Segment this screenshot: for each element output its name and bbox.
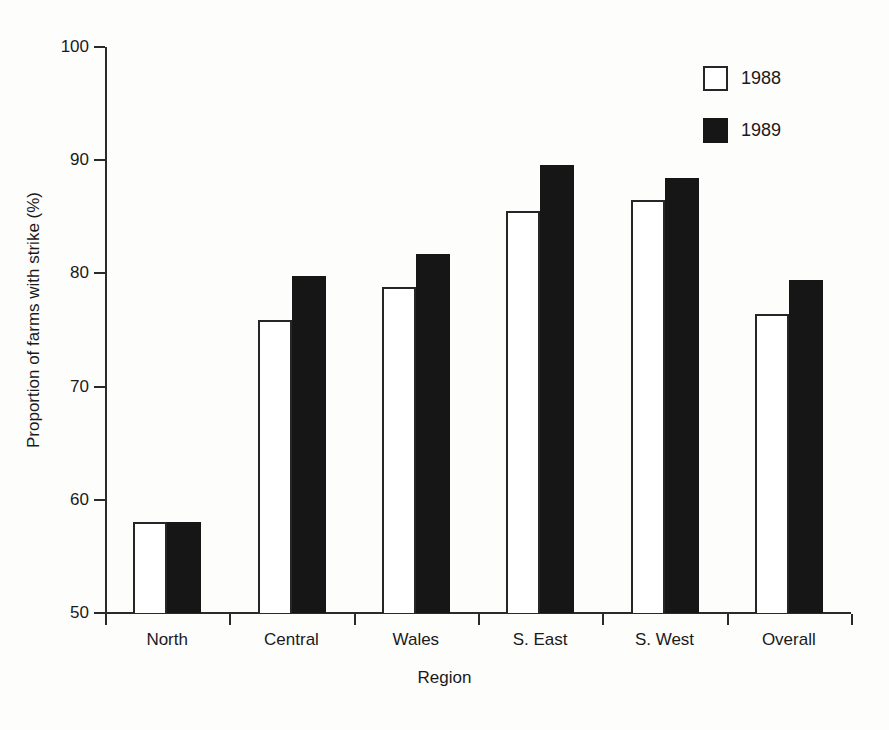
legend-label-1989: 1989	[741, 118, 781, 143]
y-axis-tick-label: 70	[49, 378, 89, 395]
x-axis-tick-mark	[354, 614, 356, 625]
bar-1989-wales	[416, 254, 450, 613]
x-axis-label-overall: Overall	[727, 630, 851, 649]
bar-group	[133, 47, 201, 613]
x-axis-tick-mark	[105, 614, 107, 625]
legend-label-1988: 1988	[741, 66, 781, 91]
bar-1989-central	[292, 276, 326, 613]
x-axis-tick-mark	[478, 614, 480, 625]
y-axis-tick-mark	[94, 499, 105, 501]
bar-1988-s-west	[631, 200, 665, 613]
bar-1988-central	[258, 320, 292, 613]
y-axis-tick-label: 80	[49, 264, 89, 281]
filled-square-swatch-icon	[703, 118, 728, 143]
bar-1988-overall	[755, 314, 789, 613]
x-axis-label-central: Central	[229, 630, 353, 649]
plot-area	[105, 47, 851, 613]
x-axis-tick-mark	[229, 614, 231, 625]
y-axis-tick-mark	[94, 386, 105, 388]
y-axis-title: Proportion of farms with strike (%)	[24, 90, 44, 550]
bar-group	[506, 47, 574, 613]
y-axis-tick-mark	[94, 159, 105, 161]
x-axis-label-wales: Wales	[354, 630, 478, 649]
bar-1989-overall	[789, 280, 823, 613]
x-axis-label-north: North	[105, 630, 229, 649]
y-axis-tick-mark	[94, 272, 105, 274]
bar-group	[258, 47, 326, 613]
y-axis-tick-mark	[94, 46, 105, 48]
bar-group	[631, 47, 699, 613]
x-axis-title: Region	[0, 668, 889, 688]
y-axis-tick-label: 60	[49, 491, 89, 508]
open-square-swatch-icon	[703, 66, 728, 91]
y-axis-tick-label: 50	[49, 604, 89, 621]
bar-chart: 5060708090100 NorthCentralWalesS. EastS.…	[0, 0, 889, 730]
y-axis-tick-label: 100	[49, 38, 89, 55]
x-axis-tick-mark	[602, 614, 604, 625]
bar-1988-s-east	[506, 211, 540, 613]
x-axis-label-s-east: S. East	[478, 630, 602, 649]
y-axis-tick-mark	[94, 612, 105, 614]
bar-1988-wales	[382, 287, 416, 613]
bar-1989-north	[167, 522, 201, 613]
bar-1989-s-east	[540, 165, 574, 613]
bar-group	[382, 47, 450, 613]
x-axis-label-s-west: S. West	[602, 630, 726, 649]
y-axis-tick-label: 90	[49, 151, 89, 168]
x-axis-tick-mark	[727, 614, 729, 625]
bar-1989-s-west	[665, 178, 699, 613]
x-axis-tick-mark	[851, 614, 853, 625]
bar-1988-north	[133, 522, 167, 613]
